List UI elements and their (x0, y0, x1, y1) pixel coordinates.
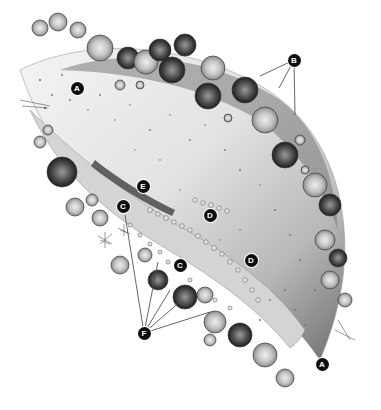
garden-bed-illustration (0, 0, 381, 410)
callout-c-groundcover: C (117, 200, 130, 213)
callout-d-pebble-band-lower: D (245, 254, 258, 267)
callout-e-stone-row: E (137, 180, 150, 193)
callout-c-groundcover-lower: C (174, 259, 187, 272)
callout-a-gravel-mulch-lower: A (316, 358, 329, 371)
callout-b-rosette-border: B (288, 54, 301, 67)
callout-a-gravel-mulch: A (71, 82, 84, 95)
callout-f-accent-plants: F (138, 327, 151, 340)
garden-diagram: A A B C C D D E F (0, 0, 381, 410)
callout-d-pebble-band: D (204, 209, 217, 222)
